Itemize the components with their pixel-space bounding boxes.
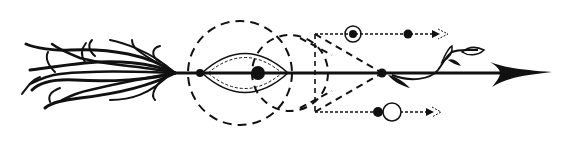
triangle-apex-node	[378, 69, 387, 78]
bottom-dotted-line-with-nodes	[315, 103, 441, 121]
small-node	[196, 69, 204, 77]
top-dotted-line-with-nodes	[315, 26, 448, 42]
large-node	[251, 66, 265, 80]
feather-fletching	[22, 40, 175, 108]
vine-with-leaves	[388, 46, 484, 88]
arrow-illustration	[0, 0, 573, 159]
